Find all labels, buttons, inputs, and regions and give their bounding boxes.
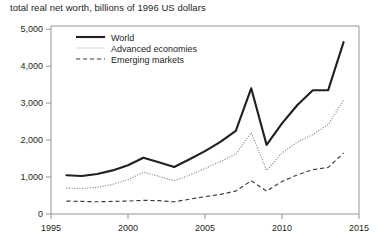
- x-tick-label-2000: 2000: [118, 223, 138, 233]
- x-tick-label-1995: 1995: [41, 223, 61, 233]
- chart-figure: total real net worth, billions of 1996 U…: [0, 0, 383, 246]
- y-tick-label-2000: 2,000: [20, 135, 43, 145]
- series-line-emerging-markets: [66, 153, 343, 202]
- legend-label-world: World: [111, 33, 134, 43]
- y-tick-label-0: 0: [38, 209, 43, 219]
- series-line-world: [66, 42, 343, 176]
- axes: [51, 26, 359, 214]
- y-tick-label-1000: 1,000: [20, 172, 43, 182]
- series-line-advanced-economies: [66, 100, 343, 188]
- y-tick-label-4000: 4,000: [20, 61, 43, 71]
- legend-label-emerging-markets: Emerging markets: [111, 55, 185, 65]
- data-series-group: [66, 42, 343, 202]
- x-tick-label-2015: 2015: [349, 223, 369, 233]
- chart-legend: World Advanced economies Emerging market…: [76, 33, 198, 65]
- y-tick-label-5000: 5,000: [20, 24, 43, 34]
- x-axis-ticks: [51, 214, 359, 219]
- y-tick-label-3000: 3,000: [20, 98, 43, 108]
- x-axis-labels: 1995 2000 2005 2010 2015: [41, 223, 369, 233]
- x-tick-label-2005: 2005: [195, 223, 215, 233]
- y-axis-labels: 5,000 4,000 3,000 2,000 1,000 0: [20, 24, 43, 219]
- legend-label-advanced-economies: Advanced economies: [111, 44, 198, 54]
- y-axis-ticks: [46, 29, 51, 214]
- x-tick-label-2010: 2010: [272, 223, 292, 233]
- line-chart-plot: 5,000 4,000 3,000 2,000 1,000 0 1995 200…: [0, 0, 383, 246]
